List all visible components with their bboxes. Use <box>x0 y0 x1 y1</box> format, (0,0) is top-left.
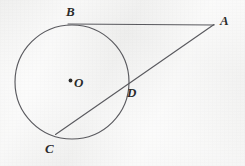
diagram-canvas <box>0 0 245 166</box>
center-label-o: O <box>74 76 83 89</box>
vertex-label-a: A <box>220 14 229 27</box>
vertex-label-b: B <box>66 5 75 18</box>
geometry-diagram: A B C D O <box>0 0 245 166</box>
center-point-dot <box>69 79 73 83</box>
vertex-label-c: C <box>45 142 54 155</box>
tangent-line-ba <box>68 24 214 25</box>
vertex-label-d: D <box>127 86 136 99</box>
circle-shape <box>15 25 129 139</box>
